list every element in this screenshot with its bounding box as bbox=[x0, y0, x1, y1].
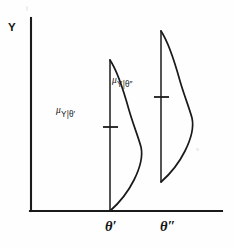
y-axis-label: Y bbox=[8, 22, 16, 34]
x-tick-label-theta-prime: θ′ bbox=[105, 219, 117, 234]
mean-subscript-prefix: Y| bbox=[61, 110, 69, 119]
figure-drawing bbox=[0, 0, 234, 247]
mean-subscript-theta: θ″ bbox=[125, 80, 133, 89]
mean-annotation-theta-prime: μY|θ′ bbox=[56, 106, 75, 119]
mean-subscript-theta: θ′ bbox=[69, 110, 75, 119]
figure-canvas: Y θ′ θ″ μY|θ′ μY|θ″ bbox=[0, 0, 234, 247]
distribution-theta-double-prime bbox=[154, 31, 193, 182]
mean-subscript-prefix: Y| bbox=[117, 80, 125, 89]
density-curve-theta-double-prime bbox=[161, 31, 193, 182]
mean-annotation-theta-double-prime: μY|θ″ bbox=[112, 76, 133, 89]
x-tick-label-theta-double-prime: θ″ bbox=[160, 219, 176, 234]
